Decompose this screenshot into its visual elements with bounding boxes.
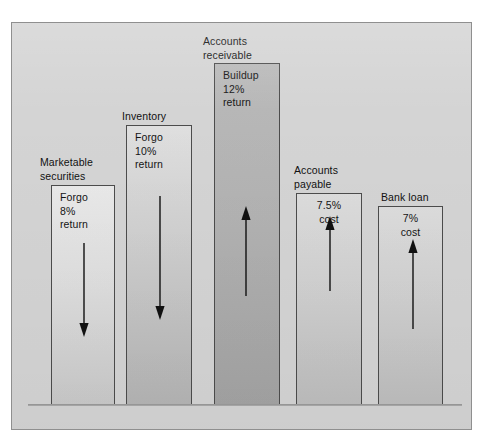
bar-label-accounts-receivable: Buildup 12% return (223, 69, 259, 110)
bar-inventory[interactable]: Forgo 10% return (126, 125, 192, 405)
bar-accounts-receivable[interactable]: Buildup 12% return (214, 63, 280, 405)
baseline-axis (28, 404, 462, 406)
bar-caption-bank-loan: Bank loan (381, 191, 429, 205)
arrow-down-icon-inventory (151, 196, 169, 321)
bar-caption-accounts-payable: Accounts payable (294, 164, 338, 191)
bar-caption-inventory: Inventory (122, 110, 166, 124)
chart-panel: Marketable securities Forgo 8% return In… (11, 22, 472, 430)
bar-label-inventory: Forgo 10% return (135, 131, 163, 172)
bar-label-marketable-securities: Forgo 8% return (60, 191, 88, 232)
arrow-down-icon-marketable-securities (75, 243, 93, 338)
bar-marketable-securities[interactable]: Forgo 8% return (51, 185, 115, 405)
bar-label-bank-loan: 7% cost (379, 212, 442, 239)
bar-caption-accounts-receivable: Accounts receivable (203, 35, 252, 62)
arrow-up-icon-bank-loan (404, 239, 422, 329)
figure-canvas: Marketable securities Forgo 8% return In… (0, 0, 489, 443)
bar-accounts-payable[interactable]: 7.5% cost (296, 193, 362, 405)
bar-bank-loan[interactable]: 7% cost (378, 206, 443, 405)
bar-caption-marketable-securities: Marketable securities (40, 156, 93, 183)
arrow-up-icon-accounts-receivable (237, 206, 255, 296)
arrow-up-icon-accounts-payable (321, 216, 339, 291)
